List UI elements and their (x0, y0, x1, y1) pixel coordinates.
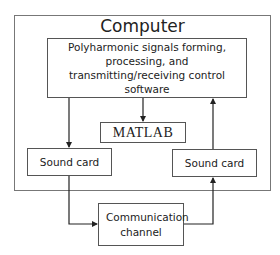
sound-card-right-label: Sound card (185, 157, 244, 169)
sound-card-right-box: Sound card (172, 149, 257, 177)
software-label: Polyharmonic signals forming, processing… (50, 40, 244, 96)
matlab-label: MATLAB (113, 125, 174, 141)
software-box: Polyharmonic signals forming, processing… (47, 38, 247, 98)
computer-title: Computer (15, 16, 270, 36)
communication-channel-label: Communication channel (106, 210, 176, 240)
matlab-box: MATLAB (100, 122, 186, 143)
communication-channel-box: Communication channel (98, 203, 184, 246)
sound-card-left-label: Sound card (40, 156, 99, 168)
sound-card-left-box: Sound card (27, 148, 112, 176)
